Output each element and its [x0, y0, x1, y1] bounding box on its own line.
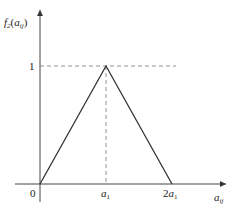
- diagram-canvas: f2(aij) 1 0 a1 2a1 aij: [0, 0, 234, 213]
- x-axis-label: aij: [214, 191, 223, 205]
- x-tick-label-0: 0: [30, 187, 36, 199]
- y-tick-label-1: 1: [29, 60, 35, 72]
- x-tick-label-a1: a1: [101, 187, 111, 201]
- x-tick-label-2a1: 2a1: [163, 187, 178, 201]
- y-axis-label: f2(aij): [4, 16, 28, 30]
